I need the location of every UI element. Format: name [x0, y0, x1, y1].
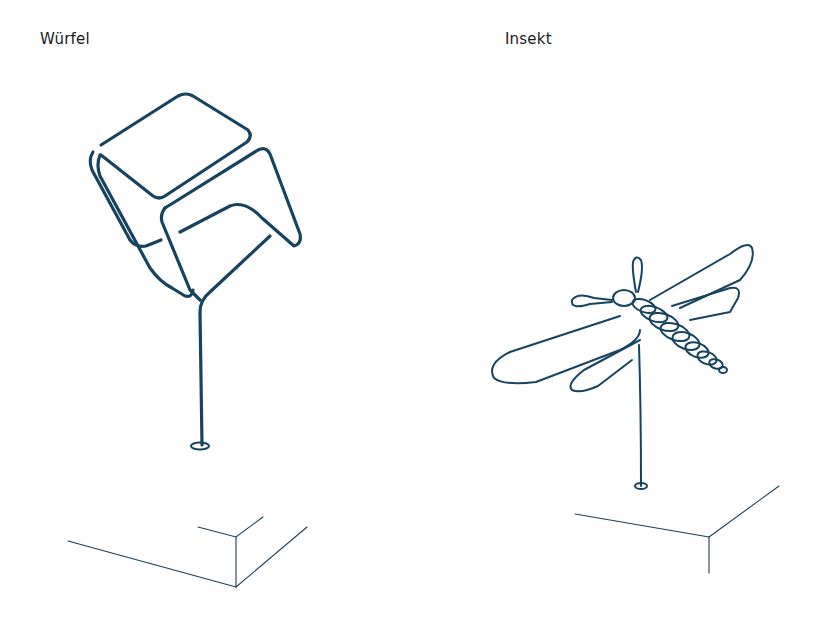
- insect-abdomen: [631, 296, 727, 373]
- wire-cube-sculpture: [90, 94, 300, 450]
- insect-pedestal: [575, 486, 779, 573]
- cube-pedestal: [68, 517, 307, 587]
- cube-stem-base-ring: [191, 443, 209, 450]
- wire-insect-sculpture: [492, 245, 753, 489]
- illustration: [0, 0, 823, 624]
